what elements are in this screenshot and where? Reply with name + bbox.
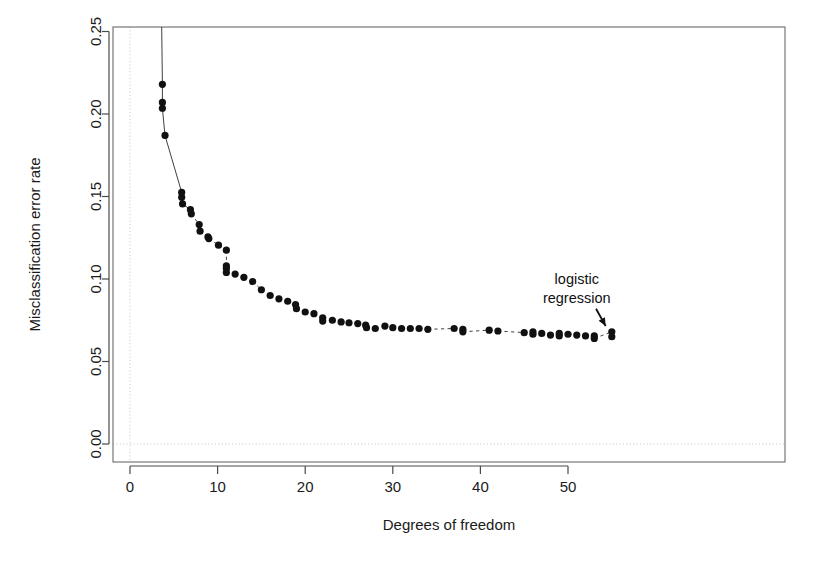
data-point [582, 332, 589, 339]
data-point [494, 327, 501, 334]
x-tick-label: 40 [472, 478, 489, 495]
data-point [573, 332, 580, 339]
data-point [564, 331, 571, 338]
data-point [372, 325, 379, 332]
data-point [302, 308, 309, 315]
data-point [547, 332, 554, 339]
data-point [310, 310, 317, 317]
annotation-label: regression [543, 290, 611, 306]
data-point [319, 317, 326, 324]
data-point [381, 322, 388, 329]
data-point [459, 328, 466, 335]
data-point [188, 210, 195, 217]
data-point [196, 228, 203, 235]
data-point [354, 320, 361, 327]
connector-dotted [190, 210, 611, 339]
data-point [240, 274, 247, 281]
data-point [556, 332, 563, 339]
chart-annotations: logisticregression [543, 271, 611, 326]
data-point [591, 335, 598, 342]
data-point [161, 132, 168, 139]
x-tick-label: 0 [126, 478, 134, 495]
x-tick-label: 50 [560, 478, 577, 495]
data-point [179, 200, 186, 207]
plot-frame [113, 27, 785, 462]
data-point [205, 235, 212, 242]
connector-offscale [162, 27, 163, 84]
data-point [329, 317, 336, 324]
data-point [178, 194, 185, 201]
data-point [521, 329, 528, 336]
reference-gridlines [113, 27, 785, 462]
y-axis-title: Misclassification error rate [26, 157, 43, 331]
x-tick-label: 10 [209, 478, 226, 495]
data-point [223, 247, 230, 254]
axes [102, 32, 568, 475]
plot-box [113, 27, 785, 462]
data-point [284, 298, 291, 305]
data-point [223, 269, 230, 276]
data-point [389, 324, 396, 331]
data-point [338, 318, 345, 325]
data-point [159, 105, 166, 112]
data-point [608, 333, 615, 340]
data-point [196, 221, 203, 228]
data-point [258, 286, 265, 293]
data-point [398, 325, 405, 332]
data-point [345, 319, 352, 326]
data-point [275, 295, 282, 302]
y-tick-label: 0.05 [87, 347, 104, 376]
data-point [451, 325, 458, 332]
data-point [293, 305, 300, 312]
data-point [424, 326, 431, 333]
chart-figure: logisticregression 0.000.050.100.150.200… [0, 0, 829, 564]
data-point [267, 292, 274, 299]
x-tick-label: 30 [384, 478, 401, 495]
y-tick-label: 0.25 [87, 17, 104, 46]
data-point [249, 278, 256, 285]
annotation-label: logistic [555, 271, 599, 287]
data-point [529, 331, 536, 338]
data-point [538, 330, 545, 337]
data-point [407, 325, 414, 332]
data-point [232, 270, 239, 277]
chart-svg: logisticregression 0.000.050.100.150.200… [0, 0, 829, 564]
data-point [159, 81, 166, 88]
y-tick-label: 0.10 [87, 264, 104, 293]
data-point [415, 325, 422, 332]
data-point [215, 242, 222, 249]
y-tick-label: 0.20 [87, 99, 104, 128]
x-tick-label: 20 [297, 478, 314, 495]
data-point [363, 324, 370, 331]
connector-solid [162, 84, 190, 209]
y-tick-label: 0.00 [87, 429, 104, 458]
x-axis-title: Degrees of freedom [383, 516, 516, 533]
data-point [486, 327, 493, 334]
y-tick-label: 0.15 [87, 182, 104, 211]
